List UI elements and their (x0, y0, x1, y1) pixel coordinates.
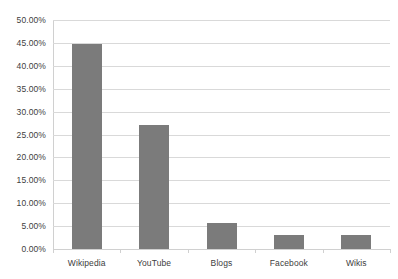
y-axis-tick-label: 10.00% (0, 198, 46, 208)
chart-title-remnant (0, 0, 398, 3)
x-axis-tick (120, 249, 121, 253)
x-axis-tick-label: Wikis (316, 258, 396, 268)
x-axis-tick (390, 249, 391, 253)
y-axis-tick-label: 20.00% (0, 152, 46, 162)
y-axis-tick-label: 5.00% (0, 221, 46, 231)
bar-youtube[interactable] (139, 125, 169, 249)
y-axis-tick-label: 30.00% (0, 107, 46, 117)
x-axis-tick (53, 249, 54, 253)
y-axis-tick-label: 15.00% (0, 175, 46, 185)
y-axis-tick-label: 0.00% (0, 244, 46, 254)
y-axis-tick-label: 35.00% (0, 84, 46, 94)
bar-blogs[interactable] (207, 223, 237, 249)
gridline (53, 249, 390, 250)
y-axis-tick-label: 45.00% (0, 38, 46, 48)
bar-wikis[interactable] (341, 235, 371, 249)
x-axis-tick (323, 249, 324, 253)
y-axis-tick-label: 40.00% (0, 61, 46, 71)
bar-chart: 0.00%5.00%10.00%15.00%20.00%25.00%30.00%… (0, 0, 398, 279)
x-axis-tick (255, 249, 256, 253)
plot-area (53, 20, 390, 249)
y-axis-tick-label: 50.00% (0, 15, 46, 25)
x-axis-tick (188, 249, 189, 253)
bar-wikipedia[interactable] (72, 44, 102, 249)
bar-facebook[interactable] (274, 235, 304, 249)
y-axis-tick-label: 25.00% (0, 130, 46, 140)
